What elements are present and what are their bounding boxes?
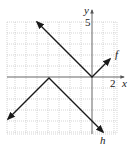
x-tick-2: 2 bbox=[110, 77, 116, 89]
curve-h bbox=[8, 78, 103, 132]
y-axis-label: y bbox=[83, 4, 89, 16]
f-label: f bbox=[115, 48, 120, 60]
graph: y 5 x 2 f h bbox=[0, 0, 131, 146]
h-label: h bbox=[100, 134, 106, 146]
y-tick-5: 5 bbox=[85, 16, 91, 28]
grid bbox=[7, 22, 117, 134]
x-axis-label: x bbox=[121, 77, 127, 89]
